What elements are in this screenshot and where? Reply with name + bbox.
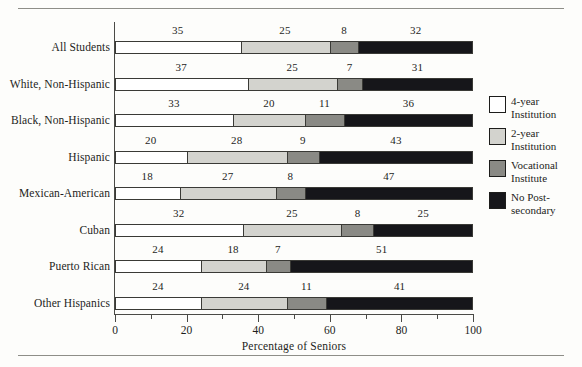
legend: 4-year Institution2-year InstitutionVoca…	[489, 95, 577, 223]
stacked-bar	[115, 151, 473, 164]
stacked-bar	[115, 41, 473, 54]
segment-value-label: 8	[288, 170, 294, 182]
bar-row: 3525832	[115, 22, 473, 57]
bar-segment	[116, 298, 201, 309]
segment-value-label: 41	[394, 280, 405, 292]
x-tick-label: 0	[112, 324, 118, 336]
segment-value-label: 28	[231, 134, 242, 146]
category-label: White, Non-Hispanic	[10, 78, 110, 90]
segment-value-label: 25	[279, 24, 290, 36]
stacked-bar	[115, 114, 473, 127]
legend-item: No Post- secondary	[489, 191, 577, 216]
category-label: Hispanic	[68, 151, 110, 163]
stacked-bar-chart-figure: All StudentsWhite, Non-HispanicBlack, No…	[0, 0, 582, 367]
x-tick-major	[258, 315, 259, 322]
x-tick-label: 20	[181, 324, 193, 336]
segment-value-label: 20	[263, 97, 274, 109]
bar-segment	[362, 79, 472, 90]
segment-value-label: 31	[412, 61, 423, 73]
bar-segment	[290, 261, 472, 272]
segment-value-label: 18	[142, 170, 153, 182]
bar-row: 24241141	[115, 278, 473, 313]
bar-segment	[248, 79, 337, 90]
x-tick-minor	[151, 315, 152, 319]
bar-row: 33201136	[115, 95, 473, 130]
x-tick-major	[330, 315, 331, 322]
x-tick-label: 100	[464, 324, 481, 336]
x-tick-minor	[437, 315, 438, 319]
bar-segment	[326, 298, 472, 309]
bar-row: 1827847	[115, 168, 473, 203]
legend-label: 4-year Institution	[511, 95, 556, 120]
bar-segment	[116, 115, 233, 126]
legend-swatch-white	[489, 96, 506, 113]
x-axis-title: Percentage of Seniors	[115, 340, 473, 352]
bar-segment	[341, 225, 373, 236]
bar-segment	[305, 115, 344, 126]
bar-row: 3225825	[115, 205, 473, 240]
legend-swatch-medium-gray	[489, 160, 506, 177]
plot-area: 3525832372573133201136202894318278473225…	[115, 22, 473, 314]
bar-segment	[116, 261, 201, 272]
x-tick-major	[473, 315, 474, 322]
bar-segment	[116, 152, 187, 163]
segment-value-label: 25	[286, 207, 297, 219]
bar-segment	[241, 42, 330, 53]
x-tick-minor	[222, 315, 223, 319]
segment-value-label: 33	[168, 97, 179, 109]
category-label: Mexican-American	[19, 187, 110, 199]
bar-segment	[266, 261, 291, 272]
segment-value-label: 47	[383, 170, 394, 182]
legend-item: 2-year Institution	[489, 127, 577, 152]
bar-segment	[276, 188, 304, 199]
x-tick-label: 80	[396, 324, 408, 336]
bar-segment	[116, 225, 243, 236]
segment-value-label: 32	[410, 24, 421, 36]
x-tick-label: 40	[252, 324, 264, 336]
stacked-bar	[115, 297, 473, 310]
segment-value-label: 25	[287, 61, 298, 73]
legend-item: Vocational Institute	[489, 159, 577, 184]
segment-value-label: 7	[275, 243, 281, 255]
bar-row: 2418751	[115, 241, 473, 276]
segment-value-label: 24	[238, 280, 249, 292]
segment-value-label: 51	[376, 243, 387, 255]
bar-segment	[116, 188, 180, 199]
bar-segment	[287, 152, 319, 163]
legend-swatch-black	[489, 192, 506, 209]
bar-segment	[201, 298, 286, 309]
bar-segment	[243, 225, 342, 236]
legend-item: 4-year Institution	[489, 95, 577, 120]
stacked-bar	[115, 187, 473, 200]
x-tick-major	[187, 315, 188, 322]
bar-segment	[287, 298, 326, 309]
bar-row: 3725731	[115, 59, 473, 94]
bar-segment	[180, 188, 276, 199]
bar-segment	[337, 79, 362, 90]
x-tick-minor	[366, 315, 367, 319]
segment-value-label: 25	[418, 207, 429, 219]
segment-value-label: 7	[347, 61, 353, 73]
legend-label: Vocational Institute	[511, 159, 558, 184]
legend-label: 2-year Institution	[511, 127, 556, 152]
x-tick-minor	[294, 315, 295, 319]
category-label: Cuban	[79, 224, 110, 236]
category-label: Puerto Rican	[49, 260, 110, 272]
bar-segment	[116, 42, 241, 53]
segment-value-label: 8	[355, 207, 361, 219]
segment-value-label: 9	[300, 134, 306, 146]
segment-value-label: 27	[222, 170, 233, 182]
segment-value-label: 32	[173, 207, 184, 219]
category-axis-labels: All StudentsWhite, Non-HispanicBlack, No…	[0, 22, 110, 314]
x-tick-major	[115, 315, 116, 322]
bar-segment	[344, 115, 472, 126]
bar-segment	[305, 188, 472, 199]
bar-segment	[330, 42, 358, 53]
segment-value-label: 18	[227, 243, 238, 255]
segment-value-label: 43	[390, 134, 401, 146]
segment-value-label: 24	[152, 280, 163, 292]
stacked-bar	[115, 224, 473, 237]
category-label: Black, Non-Hispanic	[11, 114, 110, 126]
category-label: Other Hispanics	[34, 297, 110, 309]
bar-segment	[201, 261, 265, 272]
